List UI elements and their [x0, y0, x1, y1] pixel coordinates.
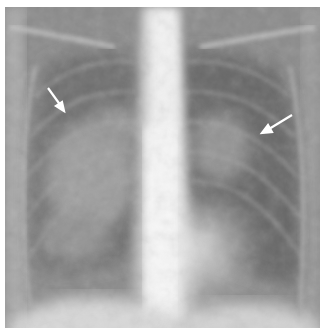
xray-image	[5, 7, 320, 328]
